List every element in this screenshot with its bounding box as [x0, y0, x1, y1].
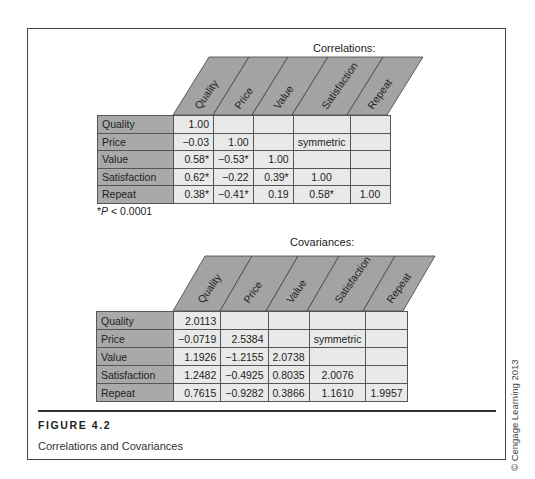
cell	[366, 312, 407, 330]
row-label: Repeat	[97, 384, 174, 402]
cell: 1.1610	[309, 384, 366, 402]
cell	[366, 366, 407, 384]
cell: −0.0719	[174, 330, 221, 348]
cell: 2.0076	[309, 366, 366, 384]
copyright-notice: © Cengage Learning 2013	[509, 359, 520, 471]
table-row: Price −0.0719 2.5384 symmetric	[97, 330, 408, 348]
cell: 1.1926	[174, 348, 221, 366]
cell: 0.7615	[174, 384, 221, 402]
table-row: Value 1.1926 −1.2155 2.0738	[97, 348, 408, 366]
cell	[221, 312, 268, 330]
caption-divider	[38, 410, 496, 412]
figure-caption: Correlations and Covariances	[38, 440, 183, 452]
row-label: Value	[97, 348, 174, 366]
cell: −0.4925	[221, 366, 268, 384]
cell: 2.0738	[268, 348, 309, 366]
table-row: Quality 2.0113	[97, 312, 408, 330]
cell	[309, 348, 366, 366]
cell	[268, 312, 309, 330]
cell: −1.2155	[221, 348, 268, 366]
cell	[309, 312, 366, 330]
cell: 2.5384	[221, 330, 268, 348]
symmetric-note: symmetric	[309, 330, 366, 348]
figure-label: FIGURE 4.2	[38, 419, 111, 431]
cell	[366, 348, 407, 366]
covariances-matrix: Quality Price Value Satisfaction Repeat …	[0, 0, 535, 410]
row-label: Price	[97, 330, 174, 348]
cell: 0.3866	[268, 384, 309, 402]
cell	[366, 330, 407, 348]
cell: −0.9282	[221, 384, 268, 402]
cell: 0.8035	[268, 366, 309, 384]
cell: 1.2482	[174, 366, 221, 384]
row-label: Satisfaction	[97, 366, 174, 384]
table-row: Repeat 0.7615 −0.9282 0.3866 1.1610 1.99…	[97, 384, 408, 402]
cell: 2.0113	[174, 312, 221, 330]
covariances-table: Quality 2.0113 Price −0.0719 2.5384 symm…	[96, 311, 408, 402]
row-label: Quality	[97, 312, 174, 330]
table-row: Satisfaction 1.2482 −0.4925 0.8035 2.007…	[97, 366, 408, 384]
cell	[268, 330, 309, 348]
cell: 1.9957	[366, 384, 407, 402]
